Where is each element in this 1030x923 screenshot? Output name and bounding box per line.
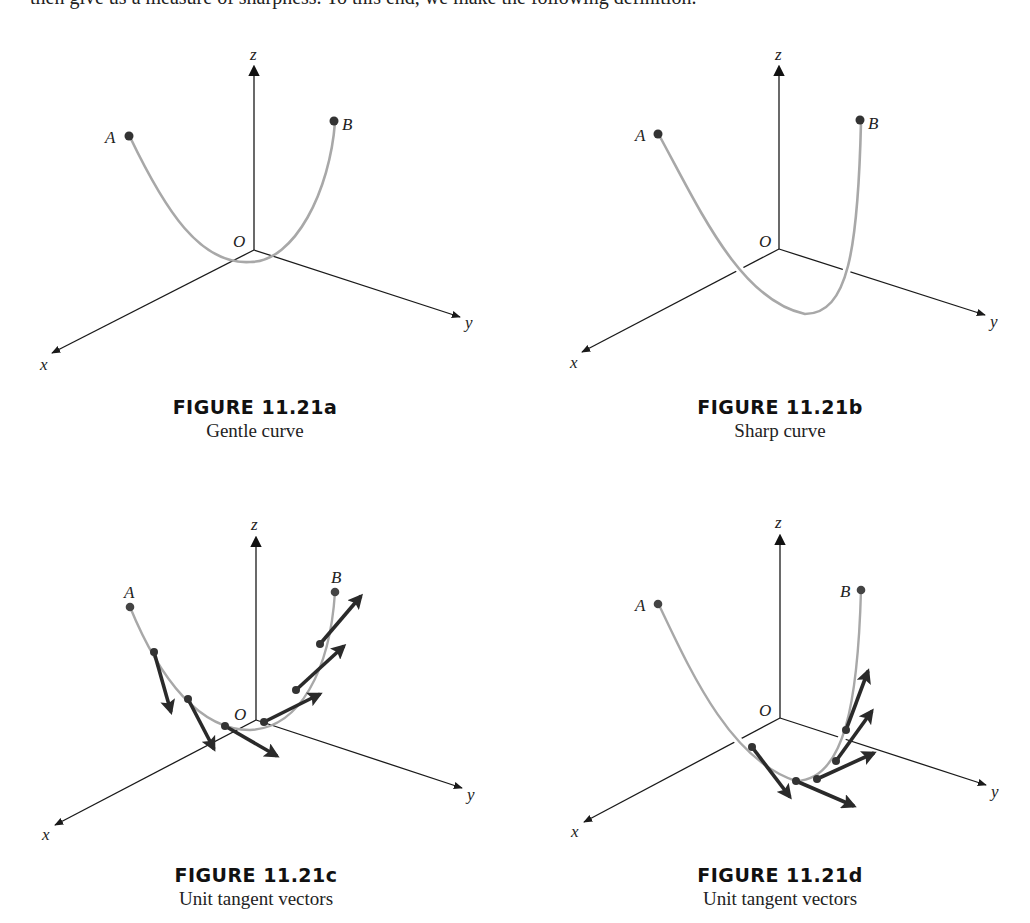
x-label: x	[41, 825, 50, 844]
y-label: y	[465, 785, 475, 804]
caption-subtitle: Sharp curve	[630, 420, 930, 442]
a-label: A	[634, 126, 646, 145]
b-label: B	[331, 568, 342, 587]
caption-title: FIGURE 11.21a	[105, 396, 405, 418]
x-axis	[582, 249, 779, 352]
x-axis	[52, 250, 254, 353]
origin-label: O	[234, 705, 246, 724]
y-axis	[256, 720, 462, 788]
point-a	[654, 130, 663, 139]
x-label: x	[39, 355, 48, 374]
x-axis	[584, 718, 780, 822]
figure-11-21a: z x y O A B	[39, 45, 473, 374]
point-b	[856, 116, 865, 125]
caption-subtitle: Unit tangent vectors	[630, 888, 930, 910]
figure-11-21b: z x y O A B	[569, 45, 998, 372]
x-label: x	[570, 822, 579, 841]
a-label: A	[123, 583, 135, 602]
caption-11-21d: FIGURE 11.21d Unit tangent vectors	[630, 864, 930, 910]
caption-subtitle: Unit tangent vectors	[106, 888, 406, 910]
figure-11-21d: z x y O A B	[570, 513, 999, 841]
caption-title: FIGURE 11.21b	[630, 396, 930, 418]
caption-11-21b: FIGURE 11.21b Sharp curve	[630, 396, 930, 442]
y-label: y	[988, 312, 998, 331]
b-label: B	[868, 114, 879, 133]
caption-11-21a: FIGURE 11.21a Gentle curve	[105, 396, 405, 442]
tangent-vectors	[154, 596, 361, 756]
point-a	[125, 132, 134, 141]
y-axis	[779, 249, 985, 315]
y-axis	[254, 250, 460, 317]
b-label: B	[840, 582, 851, 601]
z-label: z	[774, 513, 782, 532]
b-label: B	[342, 115, 353, 134]
origin-label: O	[233, 232, 245, 251]
origin-label: O	[759, 232, 771, 251]
figure-canvas: z x y O A B z x y O A B	[0, 0, 1030, 923]
caption-title: FIGURE 11.21c	[106, 864, 406, 886]
x-label: x	[569, 353, 578, 372]
x-axis	[55, 720, 256, 825]
curve	[130, 592, 335, 730]
point-b	[331, 588, 340, 597]
z-label: z	[774, 45, 782, 64]
y-label: y	[463, 313, 473, 332]
a-label: A	[104, 128, 116, 147]
point-b	[330, 117, 339, 126]
caption-title: FIGURE 11.21d	[630, 864, 930, 886]
z-label: z	[249, 45, 257, 64]
y-label: y	[989, 782, 999, 801]
figure-11-21c: z x y O A B	[41, 515, 475, 844]
z-label: z	[250, 515, 258, 534]
point-b	[857, 586, 866, 595]
point-a	[126, 603, 135, 612]
curve	[659, 590, 861, 781]
point-a	[654, 600, 663, 609]
caption-11-21c: FIGURE 11.21c Unit tangent vectors	[106, 864, 406, 910]
origin-label: O	[759, 701, 771, 720]
a-label: A	[634, 596, 646, 615]
caption-subtitle: Gentle curve	[105, 420, 405, 442]
